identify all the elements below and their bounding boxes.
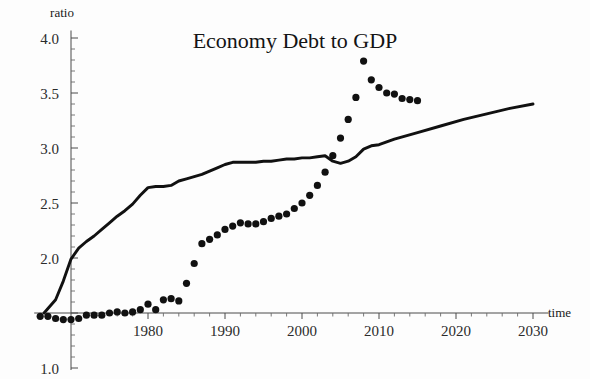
data-point: [260, 218, 267, 225]
y-tick-label: 2.0: [40, 251, 59, 267]
data-point: [152, 306, 159, 313]
data-point: [322, 169, 329, 176]
x-tick-label: 2010: [364, 323, 394, 339]
data-point: [206, 236, 213, 243]
data-point: [160, 296, 167, 303]
trend-line-path: [44, 104, 533, 313]
data-point: [83, 312, 90, 319]
data-point: [406, 96, 413, 103]
data-point: [360, 58, 367, 65]
data-point: [106, 309, 113, 316]
data-point: [37, 313, 44, 320]
data-point: [414, 97, 421, 104]
data-point: [91, 312, 98, 319]
y-tick-label: 1.0: [40, 361, 59, 377]
data-point: [114, 308, 121, 315]
x-tick-label: 2000: [287, 323, 317, 339]
data-series-layer: [37, 58, 533, 324]
chart-title: Economy Debt to GDP: [193, 28, 398, 53]
data-point: [298, 199, 305, 206]
data-point: [345, 116, 352, 123]
y-axis-label: ratio: [50, 5, 74, 20]
scatter-points: [37, 58, 422, 324]
y-tick-label: 2.5: [40, 196, 59, 212]
data-point: [306, 192, 313, 199]
x-tick-label: 1990: [210, 323, 240, 339]
data-point: [252, 220, 259, 227]
y-tick-label: 3.0: [40, 141, 59, 157]
data-point: [314, 182, 321, 189]
data-point: [268, 215, 275, 222]
data-point: [329, 152, 336, 159]
data-point: [137, 306, 144, 313]
data-point: [129, 308, 136, 315]
data-point: [67, 316, 74, 323]
tick-labels-layer: 1980199020002010202020301.02.02.53.03.54…: [40, 31, 548, 377]
data-point: [245, 220, 252, 227]
x-tick-label: 2030: [518, 323, 548, 339]
chart-page: 1980199020002010202020301.02.02.53.03.54…: [0, 0, 590, 379]
data-point: [352, 94, 359, 101]
data-point: [98, 312, 105, 319]
x-tick-label: 1980: [133, 323, 163, 339]
data-point: [291, 205, 298, 212]
y-tick-label: 3.5: [40, 86, 59, 102]
data-point: [221, 226, 228, 233]
data-point: [191, 260, 198, 267]
data-point: [399, 95, 406, 102]
data-point: [275, 213, 282, 220]
axes-layer: [34, 31, 549, 371]
data-point: [283, 210, 290, 217]
data-point: [144, 301, 151, 308]
economy-debt-to-gdp-chart: 1980199020002010202020301.02.02.53.03.54…: [0, 0, 590, 379]
data-point: [44, 313, 51, 320]
data-point: [229, 223, 236, 230]
x-tick-label: 2020: [441, 323, 471, 339]
data-point: [175, 297, 182, 304]
data-point: [121, 309, 128, 316]
data-point: [183, 280, 190, 287]
data-point: [52, 315, 59, 322]
data-point: [391, 91, 398, 98]
data-point: [60, 316, 67, 323]
data-point: [168, 295, 175, 302]
data-point: [368, 76, 375, 83]
data-point: [198, 240, 205, 247]
y-tick-label: 4.0: [40, 31, 59, 47]
data-point: [214, 231, 221, 238]
data-point: [75, 315, 82, 322]
data-point: [383, 89, 390, 96]
data-point: [375, 84, 382, 91]
x-axis-label: time: [548, 305, 571, 320]
data-point: [337, 135, 344, 142]
data-point: [237, 219, 244, 226]
